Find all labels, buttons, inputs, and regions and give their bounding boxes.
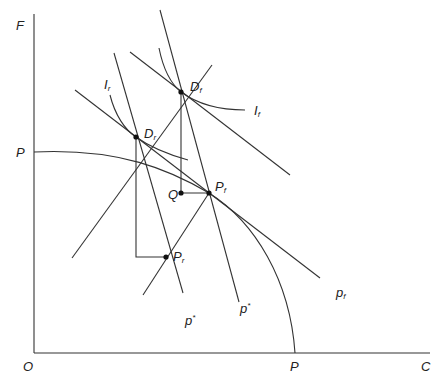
label-pr: Pr (173, 250, 184, 265)
label-pf-line: pf (336, 286, 345, 301)
production-ray (143, 193, 209, 295)
ppf-curve (34, 152, 295, 353)
label-dr: Dr (144, 127, 156, 142)
origin-label: O (23, 360, 33, 373)
point-pf (206, 190, 211, 195)
point-df (178, 89, 183, 94)
x-intercept-label: P (290, 360, 299, 373)
y-intercept-label: P (16, 146, 25, 159)
label-q: Q (168, 188, 178, 201)
label-pf: Pf (215, 180, 226, 195)
trade-triangle-free (181, 92, 209, 193)
x-axis-label: C (421, 360, 430, 373)
ppf-trade-diagram: F P O P C Df Dr Pf Pr Q Ir If p* p* pf (0, 0, 441, 382)
point-pr (163, 254, 168, 259)
label-p-star-1: p* (185, 314, 195, 327)
trade-triangle-restricted (136, 137, 166, 257)
price-line-through-df (130, 52, 290, 175)
label-ir: Ir (104, 78, 110, 93)
label-df: Df (190, 80, 202, 95)
y-axis-label: F (16, 19, 24, 32)
point-dr (133, 134, 138, 139)
label-if: If (254, 104, 260, 119)
p-star-line-2 (160, 10, 239, 302)
pf-price-line (75, 90, 320, 278)
label-p-star-2: p* (240, 302, 250, 315)
point-q (178, 190, 183, 195)
